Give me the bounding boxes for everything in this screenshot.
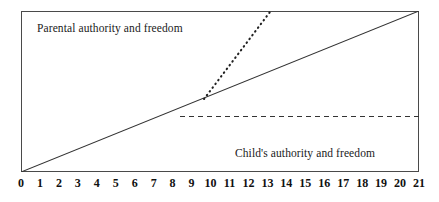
x-tick-label: 18	[356, 176, 368, 190]
x-tick-label: 19	[375, 176, 387, 190]
chart-figure: Parental authority and freedom Child's a…	[0, 0, 439, 202]
x-tick-label: 0	[18, 176, 24, 190]
x-tick-label: 14	[280, 176, 292, 190]
parental-authority-label: Parental authority and freedom	[37, 22, 183, 34]
x-tick-label: 6	[132, 176, 138, 190]
x-tick-label: 12	[242, 176, 254, 190]
x-tick-label: 9	[189, 176, 195, 190]
x-tick-label: 15	[299, 176, 311, 190]
x-tick-label: 3	[75, 176, 81, 190]
x-tick-label: 11	[224, 176, 235, 190]
child-authority-label: Child's authority and freedom	[235, 147, 375, 159]
x-tick-label: 4	[94, 176, 100, 190]
x-tick-label: 5	[113, 176, 119, 190]
x-tick-label: 2	[56, 176, 62, 190]
x-tick-label: 21	[413, 176, 425, 190]
x-tick-label: 1	[37, 176, 43, 190]
x-tick-label: 8	[170, 176, 176, 190]
x-tick-label: 7	[151, 176, 157, 190]
x-tick-label: 17	[337, 176, 349, 190]
x-tick-label: 10	[205, 176, 217, 190]
x-tick-label: 16	[318, 176, 330, 190]
x-tick-label: 20	[394, 176, 406, 190]
line-accelerated-transfer	[204, 12, 270, 99]
x-axis-tick-labels: 0123456789101112131415161718192021	[21, 176, 419, 196]
x-tick-label: 13	[261, 176, 273, 190]
